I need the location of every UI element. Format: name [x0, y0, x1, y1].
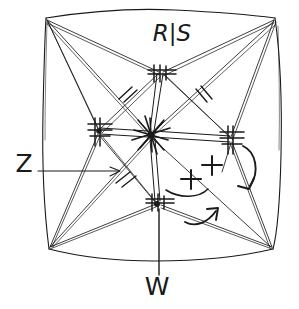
label-left: Z — [15, 149, 32, 178]
bottom-node-dot — [154, 201, 160, 207]
hand-drawn-diagram: R|S Z W — [0, 0, 299, 309]
left-node-dot — [96, 128, 102, 134]
label-top: R|S — [153, 20, 191, 46]
label-bottom: W — [145, 272, 170, 301]
center-node-dot — [147, 131, 154, 138]
sketch-canvas: R|S Z W — [0, 0, 299, 309]
